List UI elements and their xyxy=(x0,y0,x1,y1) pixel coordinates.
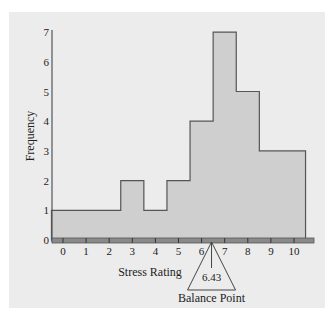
balance-point-marker: 6.43 Balance Point xyxy=(178,242,246,305)
x-axis-label: Stress Rating xyxy=(118,265,182,279)
x-tick-label: 0 xyxy=(60,245,66,257)
y-tick-label: 3 xyxy=(44,145,50,157)
y-tick-label: 0 xyxy=(44,234,50,246)
x-axis-band xyxy=(52,238,314,243)
x-tick-label: 9 xyxy=(268,245,274,257)
y-tick-label: 2 xyxy=(44,175,50,187)
x-tick-label: 4 xyxy=(153,245,159,257)
x-tick-label: 6 xyxy=(199,245,205,257)
x-tick-label: 5 xyxy=(176,245,182,257)
balance-point-label: Balance Point xyxy=(178,291,246,305)
x-tick-label: 7 xyxy=(222,245,228,257)
y-tick-label: 5 xyxy=(44,86,50,98)
y-axis-label: Frequency xyxy=(23,111,37,162)
y-tick-label: 7 xyxy=(44,26,50,38)
x-tick-label: 2 xyxy=(106,245,112,257)
histogram-outline xyxy=(51,32,305,240)
histogram-chart: 012345678910 01234567 Stress Rating Freq… xyxy=(0,0,332,316)
x-tick-label: 10 xyxy=(289,245,301,257)
x-tick-label: 3 xyxy=(130,245,136,257)
x-tick-label: 8 xyxy=(245,245,251,257)
y-axis-ticks: 01234567 xyxy=(44,26,50,246)
histogram-bars xyxy=(51,32,305,240)
balance-point-value: 6.43 xyxy=(202,271,222,283)
y-tick-label: 6 xyxy=(44,56,50,68)
x-tick-label: 1 xyxy=(83,245,89,257)
y-tick-label: 4 xyxy=(44,115,50,127)
y-tick-label: 1 xyxy=(44,204,50,216)
